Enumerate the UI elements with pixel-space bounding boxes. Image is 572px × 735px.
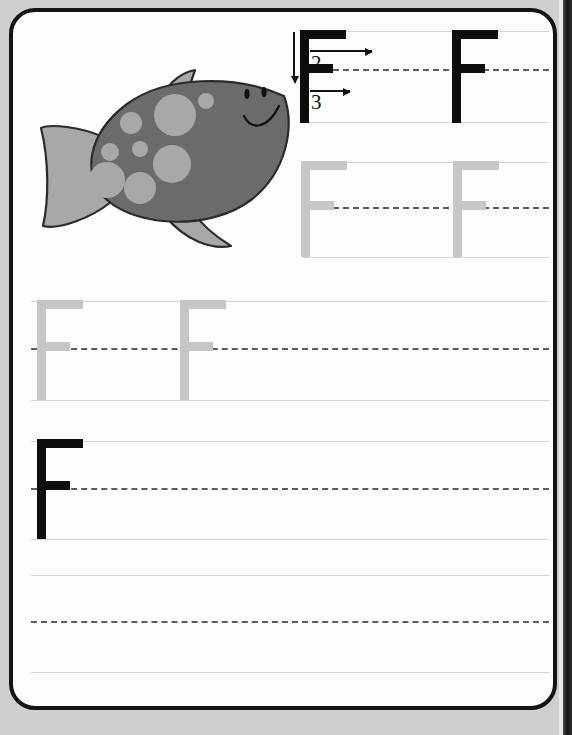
letter-stroke-mid-arm <box>37 342 70 351</box>
trace-letter-f-2[interactable] <box>453 161 499 257</box>
scan-edge-artifact <box>563 0 572 735</box>
guide-line-bottom <box>31 400 549 401</box>
model-letter-f-3 <box>37 439 83 539</box>
letter-stroke-mid-arm <box>301 201 334 210</box>
guide-line-top <box>31 441 549 442</box>
stroke-number-2: 2 <box>311 53 322 74</box>
practice-row-4 <box>13 417 557 557</box>
letter-stroke-mid-arm <box>37 481 70 490</box>
practice-row-5 <box>13 557 557 697</box>
dashed-midline <box>31 621 549 623</box>
guide-line-top <box>31 575 549 576</box>
letter-stroke-top-arm <box>453 161 499 170</box>
model-letter-f-2 <box>452 30 498 123</box>
guide-line-bottom <box>31 539 549 540</box>
dashed-midline <box>31 348 549 350</box>
letter-stroke-top-arm <box>37 439 83 448</box>
stroke-number-3: 3 <box>311 92 322 113</box>
trace-letter-f-3[interactable] <box>37 300 83 400</box>
fish-illustration <box>35 60 303 260</box>
letter-stroke-top-arm <box>301 161 347 170</box>
guide-line-bottom <box>303 257 549 258</box>
letter-stroke-mid-arm <box>453 201 486 210</box>
fish-eye-right <box>261 87 266 97</box>
practice-row-3 <box>13 277 557 417</box>
worksheet-page: 2 3 <box>9 8 557 710</box>
letter-stroke-mid-arm <box>452 64 485 73</box>
letter-stroke-top-arm <box>37 300 83 309</box>
trace-letter-f-4[interactable] <box>180 300 226 400</box>
letter-stroke-mid-arm <box>180 342 213 351</box>
letter-stroke-top-arm <box>180 300 226 309</box>
dashed-midline <box>31 488 549 490</box>
fish-eye-left <box>244 89 249 99</box>
guide-line-bottom <box>31 672 549 673</box>
letter-stroke-top-arm <box>452 30 498 39</box>
guide-line-top <box>31 301 549 302</box>
letter-stroke-stem <box>452 30 461 123</box>
trace-letter-f-1[interactable] <box>301 161 347 257</box>
